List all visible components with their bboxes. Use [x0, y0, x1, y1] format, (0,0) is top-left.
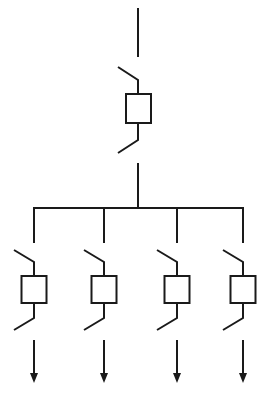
feeder-2 [84, 208, 117, 383]
disconnector-switch-icon [157, 303, 177, 330]
arrow-down-icon [30, 373, 38, 383]
single-line-diagram [0, 0, 273, 404]
disconnector-switch-icon [14, 250, 34, 276]
feeder-4 [223, 208, 256, 383]
disconnector-switch-icon [84, 303, 104, 330]
arrow-down-icon [239, 373, 247, 383]
circuit-breaker-icon [126, 94, 151, 123]
circuit-breaker-icon [22, 276, 47, 303]
arrow-down-icon [173, 373, 181, 383]
disconnector-switch-icon [157, 250, 177, 276]
feeder-3 [157, 208, 190, 383]
disconnector-switch-icon [118, 67, 138, 94]
incoming-section [118, 8, 151, 208]
circuit-breaker-icon [165, 276, 190, 303]
feeder-1 [14, 208, 47, 383]
diagram-canvas [0, 0, 273, 404]
disconnector-switch-icon [14, 303, 34, 330]
feeder-group [14, 208, 256, 383]
disconnector-switch-icon [118, 123, 138, 153]
circuit-breaker-icon [231, 276, 256, 303]
circuit-breaker-icon [92, 276, 117, 303]
arrow-down-icon [100, 373, 108, 383]
disconnector-switch-icon [84, 250, 104, 276]
disconnector-switch-icon [223, 303, 243, 330]
disconnector-switch-icon [223, 250, 243, 276]
